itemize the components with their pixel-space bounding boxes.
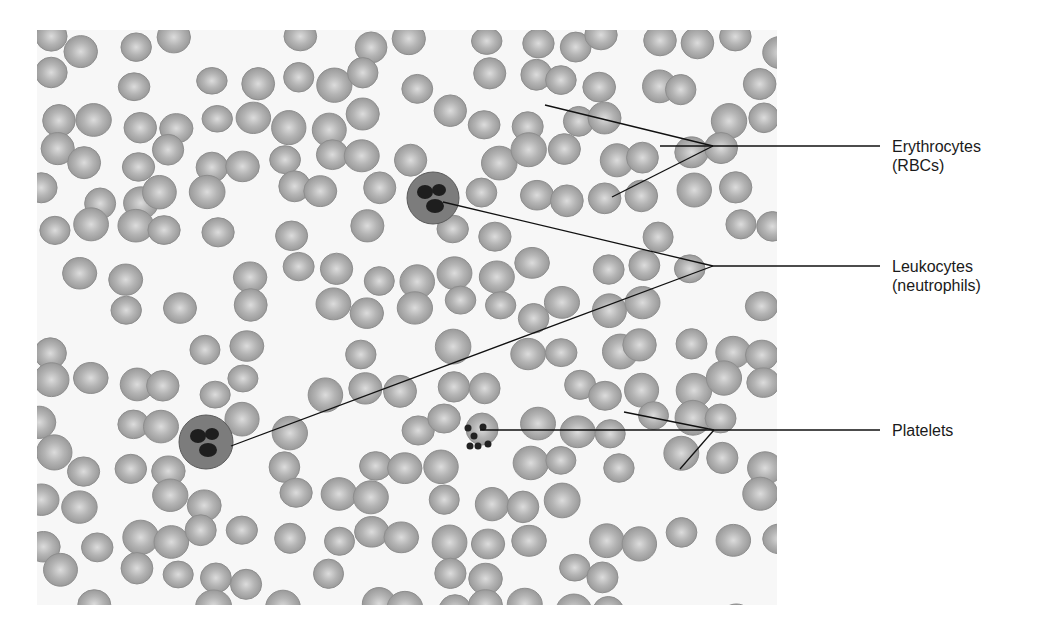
label-leukocytes: Leukocytes (neutrophils) <box>892 257 981 295</box>
label-erythrocytes: Erythrocytes (RBCs) <box>892 137 981 175</box>
label-platelets: Platelets <box>892 421 953 440</box>
cells-layer <box>37 30 777 605</box>
blood-smear-micrograph <box>37 30 777 605</box>
